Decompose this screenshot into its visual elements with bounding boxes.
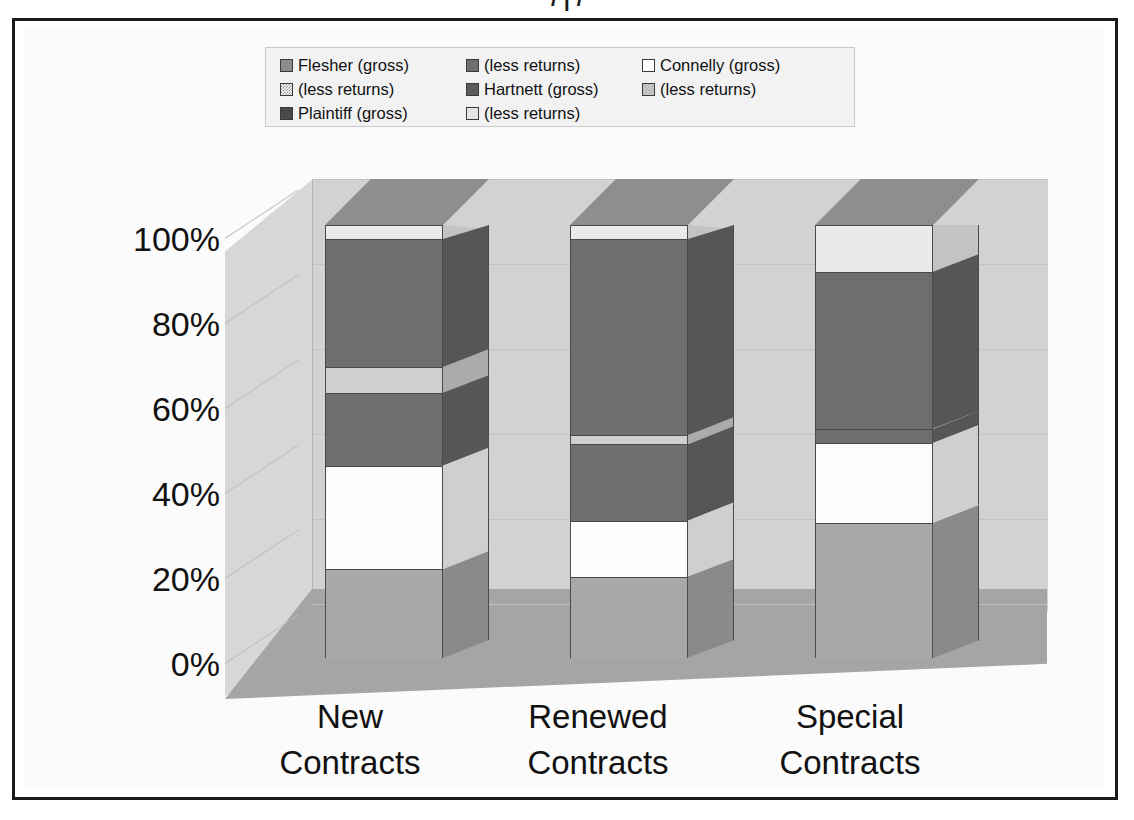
y-tick-label-0: 0% bbox=[90, 647, 220, 681]
bar-new-seg-flesher-gross bbox=[325, 569, 443, 658]
y-tick-label-60: 60% bbox=[90, 392, 220, 426]
bar-renewed-seg-flesher-gross bbox=[570, 577, 688, 658]
x-label-special-line2: Contracts bbox=[725, 743, 975, 783]
legend-label-hartnett-gross: Hartnett (gross) bbox=[484, 81, 599, 97]
legend-label-flesher-less-returns: (less returns) bbox=[484, 57, 580, 73]
legend-item-flesher-less-returns[interactable]: (less returns) bbox=[466, 57, 642, 73]
legend-item-flesher-gross[interactable]: Flesher (gross) bbox=[280, 57, 466, 73]
bar-new-seg-hartnett-gross bbox=[325, 393, 443, 466]
hartnett-less-returns-swatch-icon bbox=[642, 83, 655, 96]
legend-label-plaintiff-less-returns: (less returns) bbox=[484, 105, 580, 121]
plot-area: 100% 80% 60% 40% 20% 0% New Contracts Re… bbox=[25, 29, 1105, 787]
legend-label-connelly-less-returns: (less returns) bbox=[298, 81, 394, 97]
legend-item-hartnett-gross[interactable]: Hartnett (gross) bbox=[466, 81, 642, 97]
bar-special-seg-connelly-gross bbox=[815, 443, 933, 523]
y-axis: 100% 80% 60% 40% 20% 0% bbox=[80, 29, 220, 729]
legend-item-connelly-gross[interactable]: Connelly (gross) bbox=[642, 57, 780, 73]
x-label-renewed-line1: Renewed bbox=[473, 697, 723, 737]
bar-special-side-flesher-gross bbox=[933, 505, 979, 704]
legend-item-connelly-less-returns[interactable]: (less returns) bbox=[280, 81, 466, 97]
x-label-new-line2: Contracts bbox=[225, 743, 475, 783]
bar-new-seg-plaintiff-gross bbox=[325, 239, 443, 367]
hartnett-swatch-icon bbox=[466, 83, 479, 96]
bar-special-seg-plaintiff-gross bbox=[815, 272, 933, 429]
bar-new-seg-hartnett-less bbox=[325, 367, 443, 393]
chart-canvas: 100% 80% 60% 40% 20% 0% New Contracts Re… bbox=[25, 29, 1105, 787]
plaintiff-swatch-icon bbox=[280, 107, 293, 120]
bar-new-seg-connelly-gross bbox=[325, 466, 443, 569]
connelly-less-returns-swatch-icon bbox=[280, 83, 293, 96]
connelly-swatch-icon bbox=[642, 59, 655, 72]
chart-frame: 100% 80% 60% 40% 20% 0% New Contracts Re… bbox=[12, 18, 1118, 800]
bar-new-seg-plaintiff-less bbox=[325, 225, 443, 239]
y-tick-label-100: 100% bbox=[90, 222, 220, 256]
legend-label-hartnett-less-returns: (less returns) bbox=[660, 81, 756, 97]
chart-legend: Flesher (gross) (less returns) Connelly … bbox=[265, 47, 855, 127]
legend-item-plaintiff-gross[interactable]: Plaintiff (gross) bbox=[280, 105, 466, 121]
bar-special-seg-flesher-gross bbox=[815, 523, 933, 658]
bar-renewed-seg-plaintiff-gross bbox=[570, 239, 688, 435]
bar-renewed-seg-plaintiff-less bbox=[570, 225, 688, 239]
cropped-title: / | / bbox=[0, 0, 1134, 16]
legend-item-plaintiff-less-returns[interactable]: (less returns) bbox=[466, 105, 642, 121]
y-tick-label-20: 20% bbox=[90, 562, 220, 596]
x-label-new-line1: New bbox=[225, 697, 475, 737]
x-label-special-line1: Special bbox=[725, 697, 975, 737]
legend-item-hartnett-less-returns[interactable]: (less returns) bbox=[642, 81, 756, 97]
scanned-page: / | / bbox=[0, 0, 1134, 820]
y-tick-label-40: 40% bbox=[90, 477, 220, 511]
bar-special-seg-hartnett-gross bbox=[815, 429, 933, 443]
legend-row-1: Flesher (gross) (less returns) Connelly … bbox=[280, 53, 848, 77]
bar-special-seg-plaintiff-less bbox=[815, 225, 933, 272]
flesher-less-returns-swatch-icon bbox=[466, 59, 479, 72]
bar-renewed-side-flesher-gross bbox=[688, 559, 734, 704]
plaintiff-less-returns-swatch-icon bbox=[466, 107, 479, 120]
legend-label-flesher-gross: Flesher (gross) bbox=[298, 57, 409, 73]
legend-label-connelly-gross: Connelly (gross) bbox=[660, 57, 780, 73]
x-axis: New Contracts Renewed Contracts Special … bbox=[25, 697, 1105, 787]
bar-renewed-seg-hartnett-less bbox=[570, 435, 688, 444]
x-label-renewed-line2: Contracts bbox=[473, 743, 723, 783]
flesher-swatch-icon bbox=[280, 59, 293, 72]
legend-row-2: (less returns) Hartnett (gross) (less re… bbox=[280, 77, 848, 101]
bar-renewed-seg-connelly-gross bbox=[570, 521, 688, 577]
legend-row-3: Plaintiff (gross) (less returns) bbox=[280, 101, 848, 125]
y-tick-label-80: 80% bbox=[90, 307, 220, 341]
bar-renewed-seg-hartnett-gross bbox=[570, 444, 688, 521]
legend-label-plaintiff-gross: Plaintiff (gross) bbox=[298, 105, 408, 121]
page-bottom-margin bbox=[0, 804, 1134, 820]
cropped-title-text: / | / bbox=[0, 0, 1134, 12]
